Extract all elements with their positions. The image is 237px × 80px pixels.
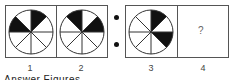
figure-label-4: 4 [197,63,209,73]
segmented-circle-2 [58,8,106,56]
caption-text: Answer Figures [4,74,80,80]
segmented-circle-3 [127,8,175,56]
figure-box-3 [125,5,178,58]
segmented-circle-1 [7,8,55,56]
figure-label-2: 2 [75,63,87,73]
figure-box-4: ? [177,5,229,58]
separator-dot-top [114,15,119,20]
figure-label-1: 1 [24,63,36,73]
unknown-figure-mark: ? [198,25,204,36]
separator-dot-bottom [114,42,119,47]
figure-box-2 [56,5,108,58]
figure-box-1 [5,5,57,58]
figure-label-3: 3 [145,63,157,73]
